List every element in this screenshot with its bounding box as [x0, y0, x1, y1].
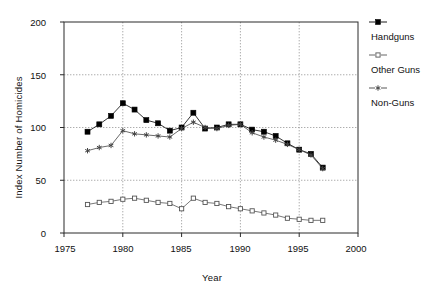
plot-area: [0, 0, 430, 292]
legend-markers: [369, 20, 387, 91]
axis-ticks: [60, 22, 358, 237]
data-series: [85, 101, 325, 223]
chart-figure: Index Number of Homicides Year 200 150 1…: [0, 0, 430, 292]
